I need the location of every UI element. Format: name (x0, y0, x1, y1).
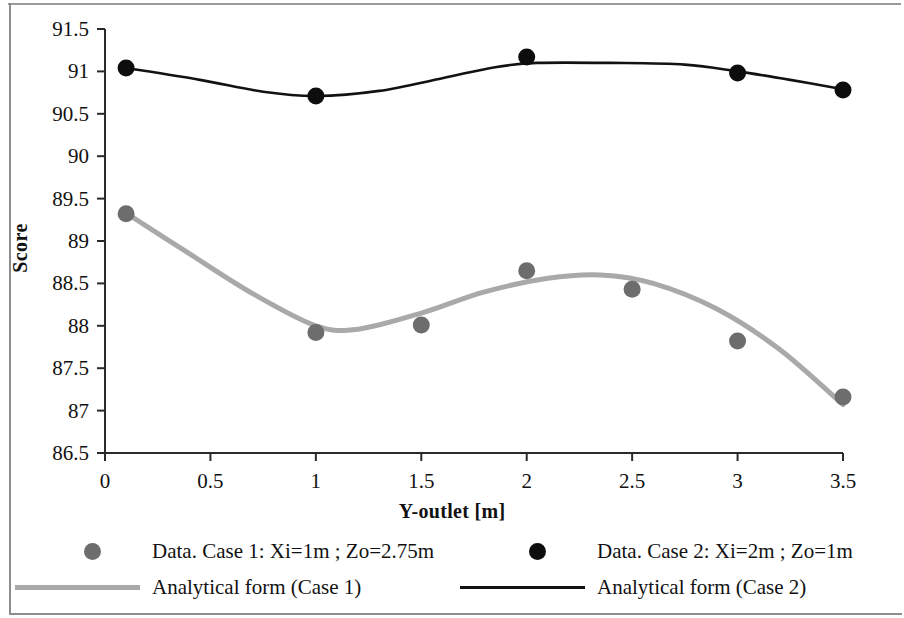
data-point-marker (118, 60, 135, 77)
legend-entry-case2-analytical: Analytical form (Case 2) (485, 570, 806, 604)
chart-legend: Data. Case 1: Xi=1m ; Zo=2.75m Data. Cas… (30, 534, 890, 608)
data-point-marker (835, 389, 852, 406)
legend-label-case1-analytical: Analytical form (Case 1) (148, 575, 361, 600)
legend-entry-case2-data: Data. Case 2: Xi=2m ; Zo=1m (485, 534, 853, 568)
legend-row-analytical: Analytical form (Case 1) Analytical form… (30, 570, 890, 604)
data-point-marker (729, 65, 746, 82)
legend-key-case2-line (485, 576, 593, 598)
y-axis-tick-label: 87.5 (0, 356, 89, 381)
x-axis-title-text: Y-outlet [m] (0, 500, 904, 523)
legend-label-case2-data: Data. Case 2: Xi=2m ; Zo=1m (593, 539, 853, 564)
data-point-marker (118, 205, 135, 222)
x-axis-tick-label: 0 (100, 469, 111, 494)
y-axis-title: Score (6, 188, 34, 308)
line-sample-icon (460, 586, 585, 589)
legend-entry-case1-analytical: Analytical form (Case 1) (40, 570, 361, 604)
legend-entry-case1-data: Data. Case 1: Xi=1m ; Zo=2.75m (40, 534, 434, 568)
y-axis-tick-label: 88 (0, 313, 89, 338)
series-line (126, 213, 843, 405)
line-sample-icon (15, 585, 140, 590)
y-axis-tick-label: 87 (0, 398, 89, 423)
data-point-marker (518, 48, 535, 65)
legend-key-case1-line (40, 576, 148, 598)
x-axis-tick-label: 2.5 (619, 469, 645, 494)
x-axis-tick-label: 2 (521, 469, 532, 494)
data-point-marker (307, 324, 324, 341)
y-axis-tick-label: 90.5 (0, 101, 89, 126)
y-axis-tick-label: 91 (0, 59, 89, 84)
legend-label-case2-analytical: Analytical form (Case 2) (593, 575, 806, 600)
data-point-marker (624, 281, 641, 298)
series-layer (118, 48, 852, 405)
data-point-marker (729, 333, 746, 350)
legend-label-case1-data: Data. Case 1: Xi=1m ; Zo=2.75m (148, 539, 434, 564)
x-axis-tick-label: 1 (311, 469, 322, 494)
y-axis-tick-label: 86.5 (0, 441, 89, 466)
legend-key-case2-marker (485, 540, 593, 562)
data-point-marker (518, 262, 535, 279)
legend-row-data: Data. Case 1: Xi=1m ; Zo=2.75m Data. Cas… (30, 534, 890, 568)
x-axis-tick-label: 1.5 (408, 469, 434, 494)
data-point-marker (307, 87, 324, 104)
filled-circle-icon (84, 543, 101, 560)
data-point-marker (413, 316, 430, 333)
plot-area (0, 0, 904, 618)
figure-chart-score-vs-y-outlet: 86.58787.58888.58989.59090.59191.5 00.51… (0, 0, 904, 618)
axis-layer (97, 29, 843, 461)
x-axis-tick-label: 0.5 (197, 469, 223, 494)
plot-canvas (0, 0, 904, 618)
x-axis-tick-label: 3.5 (830, 469, 856, 494)
y-axis-tick-label: 90 (0, 144, 89, 169)
filled-circle-icon (529, 543, 546, 560)
legend-key-case1-marker (40, 540, 148, 562)
x-axis-tick-label: 3 (732, 469, 743, 494)
y-axis-tick-label: 91.5 (0, 17, 89, 42)
data-point-marker (835, 82, 852, 99)
y-axis-title-text: Score (9, 223, 32, 272)
